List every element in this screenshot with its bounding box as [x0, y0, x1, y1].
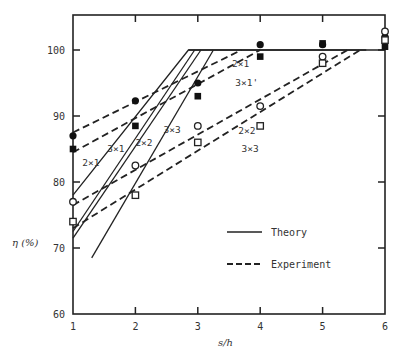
series-label: 3×3 — [241, 143, 258, 154]
series-label: 2×1 — [82, 157, 99, 168]
legend-experiment-label: Experiment — [271, 259, 331, 270]
open-circle-marker — [382, 28, 389, 35]
y-tick-label: 80 — [53, 177, 65, 188]
open-square-marker — [382, 37, 388, 43]
filled-circle-marker — [132, 97, 139, 104]
open-square-marker — [70, 218, 76, 224]
filled-square-marker — [132, 123, 139, 130]
plot-border — [73, 15, 385, 314]
open-square-marker — [132, 192, 138, 198]
filled-circle-marker — [69, 132, 76, 139]
efficiency-chart: 12345660708090100 2×13×12×23×32×13×1'2×2… — [0, 0, 403, 360]
filled-square-marker — [257, 53, 264, 60]
filled-circle-marker — [194, 79, 201, 86]
series-label: 2×2 — [238, 125, 255, 136]
filled-square-marker — [195, 93, 202, 100]
series-label: 2×2 — [135, 137, 152, 148]
data-markers — [69, 28, 388, 225]
legend: Theory Experiment — [227, 227, 331, 270]
x-tick-label: 1 — [70, 321, 76, 332]
y-tick-label: 100 — [47, 45, 65, 56]
x-axis-label: s/h — [218, 337, 233, 348]
series-label: 2×1 — [232, 58, 249, 69]
x-tick-label: 3 — [195, 321, 201, 332]
experiment-line-3x3 — [73, 50, 360, 228]
open-circle-marker — [257, 103, 264, 110]
x-tick-label: 4 — [257, 321, 263, 332]
series-label: 3×1' — [235, 77, 258, 88]
open-square-marker — [319, 60, 325, 66]
open-circle-marker — [132, 162, 139, 169]
filled-square-marker — [382, 43, 389, 50]
filled-circle-marker — [257, 41, 264, 48]
theory-line-2x1 — [73, 50, 385, 195]
series-label: 3×3 — [163, 124, 180, 135]
x-tick-label: 2 — [132, 321, 138, 332]
theory-line-3x1 — [73, 50, 195, 232]
filled-square-marker — [319, 40, 326, 47]
experiment-lines — [73, 50, 360, 228]
open-square-marker — [257, 123, 263, 129]
open-circle-marker — [195, 123, 202, 130]
experiment-line-2x1 — [73, 50, 241, 133]
open-circle-marker — [70, 199, 77, 206]
x-tick-label: 5 — [320, 321, 326, 332]
series-label: 3×1 — [107, 143, 124, 154]
open-circle-marker — [319, 53, 326, 60]
legend-theory-label: Theory — [271, 227, 307, 238]
open-square-marker — [195, 139, 201, 145]
experiment-line-2x2 — [73, 50, 348, 205]
y-axis-label: η (%) — [12, 237, 39, 248]
y-tick-label: 90 — [53, 111, 65, 122]
plot-frame — [73, 15, 385, 314]
filled-square-marker — [70, 146, 77, 153]
y-tick-label: 60 — [53, 309, 65, 320]
y-tick-label: 70 — [53, 243, 65, 254]
x-tick-label: 6 — [382, 321, 388, 332]
